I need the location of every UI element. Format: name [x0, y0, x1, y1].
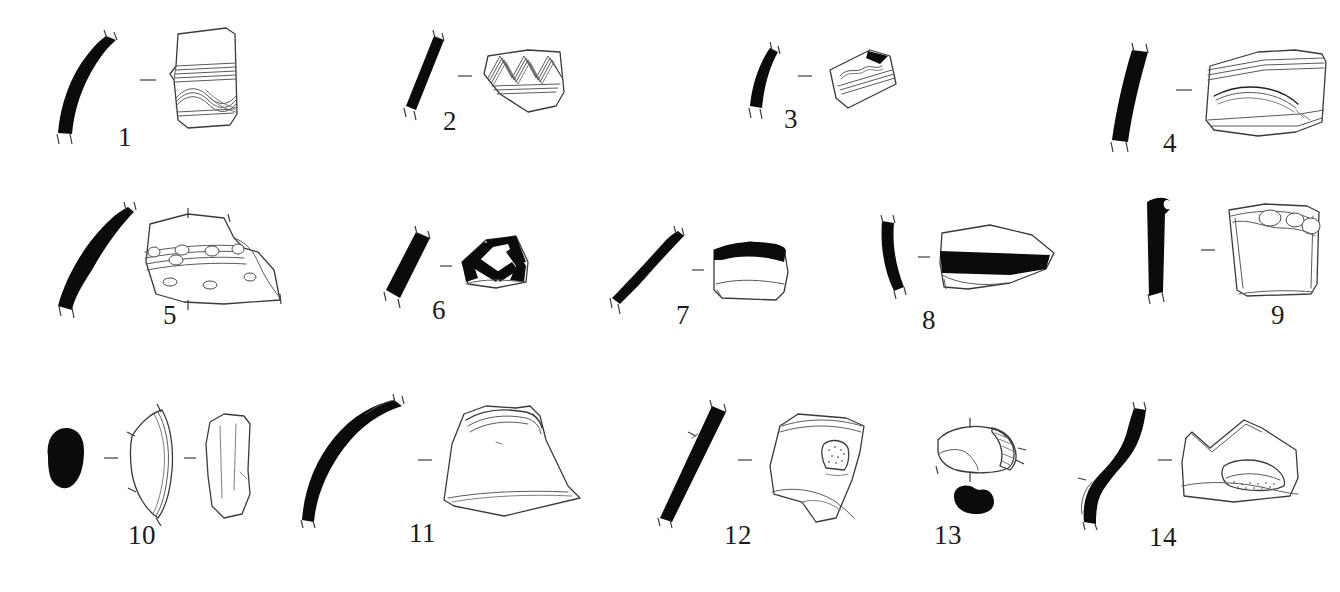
item-2-base-bands	[492, 84, 560, 94]
item-2-sherd-drawing	[484, 50, 564, 112]
item-5-impressed-ovals	[163, 273, 256, 289]
item-number-10: 10	[128, 520, 156, 551]
item-14-drawing	[1058, 390, 1323, 530]
item-4-sherd-drawing	[1206, 50, 1326, 136]
item-1-drawing	[30, 18, 260, 148]
item-14-profile-section	[1078, 402, 1146, 530]
item-1-profile-section	[57, 30, 117, 144]
item-7-sherd-drawing	[714, 242, 788, 300]
plate-item-3: 3	[718, 22, 918, 132]
item-number-12: 12	[724, 520, 752, 551]
plate-item-2: 2	[378, 22, 578, 132]
item-12-top-lines	[780, 420, 862, 432]
plate-item-10: 10	[20, 398, 285, 528]
plate-item-7: 7	[600, 222, 805, 317]
item-7-black-rim-band	[714, 242, 786, 262]
item-9-profile-section	[1147, 198, 1172, 304]
item-1-sherd-drawing	[170, 28, 237, 128]
item-number-3: 3	[784, 104, 798, 135]
item-12-knob-stipple	[828, 446, 845, 464]
item-6-black-lattice	[462, 236, 526, 282]
item-number-14: 14	[1149, 522, 1177, 553]
item-14-crescent-stipple	[1233, 481, 1275, 489]
item-number-1: 1	[118, 122, 132, 153]
item-3-drawing	[718, 22, 918, 132]
item-3-wavy-line	[840, 66, 883, 79]
plate-item-5: 5	[28, 190, 318, 320]
item-5-cordon-bosses	[148, 244, 244, 265]
item-1-horizontal-bands	[175, 63, 236, 82]
item-number-11: 11	[409, 518, 436, 549]
item-number-8: 8	[922, 305, 936, 336]
item-5-sherd-drawing	[145, 208, 281, 310]
item-3-sherd-drawing	[830, 50, 896, 108]
item-11-profile-section	[301, 394, 404, 528]
item-10-handle-section	[48, 428, 84, 488]
item-11-sherd-drawing	[444, 406, 580, 516]
item-number-9: 9	[1271, 300, 1285, 331]
item-1-wavy-band	[176, 89, 236, 112]
illustration-plate: 1	[0, 0, 1340, 592]
item-6-drawing	[368, 222, 548, 312]
item-12-applied-knob	[822, 441, 849, 476]
item-8-drawing	[860, 205, 1080, 315]
item-4-profile-section	[1111, 43, 1148, 152]
item-9-drawing	[1125, 188, 1340, 313]
item-9-sherd-drawing	[1229, 204, 1320, 296]
item-12-drawing	[630, 390, 870, 525]
item-9-rim-bosses	[1231, 210, 1320, 236]
item-5-cordon-band	[145, 245, 246, 270]
item-number-7: 7	[676, 300, 690, 331]
item-11-drawing	[290, 388, 590, 528]
plate-item-4: 4	[1090, 18, 1340, 153]
item-number-2: 2	[443, 106, 457, 137]
item-10-drawing	[20, 398, 285, 528]
plate-item-9: 9	[1125, 188, 1340, 313]
item-number-6: 6	[432, 295, 446, 326]
plate-item-14: 14	[1058, 390, 1323, 530]
item-12-sherd-drawing	[770, 414, 864, 522]
item-7-drawing	[600, 222, 805, 317]
item-2-drawing	[378, 22, 578, 132]
item-10-handle-profile	[127, 404, 173, 526]
item-3-horizontal-bands	[838, 70, 895, 94]
plate-item-12: 12	[630, 390, 870, 525]
item-13-lug-plan-view	[936, 418, 1026, 482]
item-13-lug-section	[954, 485, 994, 514]
item-6-profile-section	[384, 226, 430, 308]
plate-item-6: 6	[368, 222, 548, 312]
item-6-sherd-drawing	[462, 236, 528, 288]
plate-item-8: 8	[860, 205, 1080, 315]
plate-item-1: 1	[30, 18, 260, 148]
item-8-sherd-drawing	[940, 225, 1054, 289]
item-10-handle-face	[206, 414, 250, 518]
plate-item-13: 13	[900, 408, 1060, 518]
item-14-sherd-drawing	[1182, 420, 1298, 502]
item-3-profile-section	[749, 42, 780, 119]
plate-item-11: 11	[290, 388, 590, 528]
item-4-curved-arc	[1214, 87, 1298, 112]
item-13-drawing	[900, 408, 1060, 518]
item-7-profile-section	[610, 226, 684, 314]
item-number-4: 4	[1163, 128, 1177, 159]
item-4-drawing	[1090, 18, 1340, 153]
item-12-profile-section	[658, 400, 726, 528]
item-2-profile-section	[404, 30, 444, 120]
item-number-13: 13	[934, 520, 962, 551]
item-11-flaring-rim	[466, 410, 542, 434]
item-number-5: 5	[163, 300, 177, 331]
item-5-profile-section	[58, 202, 136, 318]
item-2-zigzag-wave	[488, 56, 562, 84]
item-8-profile-section	[881, 215, 906, 299]
